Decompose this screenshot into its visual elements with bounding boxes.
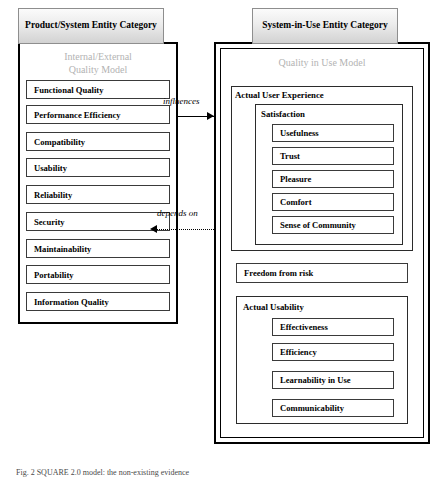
item-label: Usefulness (280, 128, 319, 138)
left-category-header: Product/System Entity Category (18, 8, 164, 44)
right-category-header: System-in-Use Entity Category (252, 8, 398, 44)
left-item-label: Information Quality (34, 297, 109, 307)
usability-item-effectiveness: Effectiveness (272, 318, 394, 336)
group-actual-usability-title: Actual Usability (243, 302, 304, 312)
right-model-label-text: Quality in Use Model (279, 57, 366, 68)
left-category-header-label: Product/System Entity Category (25, 20, 157, 32)
group-title-text: Actual User Experience (235, 90, 324, 100)
satisfaction-item-sense-of-community: Sense of Community (272, 216, 394, 234)
item-label: Effectiveness (280, 322, 328, 332)
depends-on-arrow-head-icon (150, 225, 157, 233)
left-model-label: Internal/External Quality Model (22, 50, 174, 76)
depends-on-arrow-line (156, 229, 214, 230)
right-category-header-label: System-in-Use Entity Category (262, 20, 388, 32)
depends-on-label: depends on (157, 208, 198, 218)
left-model-label-line2: Quality Model (22, 63, 174, 76)
influences-label-text: influences (163, 96, 200, 106)
depends-on-label-text: depends on (157, 208, 198, 218)
group-title-text: Actual Usability (243, 302, 304, 312)
satisfaction-item-pleasure: Pleasure (272, 170, 394, 188)
group-actual-user-experience-title: Actual User Experience (235, 90, 324, 100)
group-title-text: Satisfaction (261, 109, 305, 119)
left-item-reliability: Reliability (26, 185, 170, 204)
satisfaction-item-comfort: Comfort (272, 193, 394, 211)
item-freedom-from-risk: Freedom from risk (236, 263, 408, 283)
left-item-label: Portability (34, 270, 74, 280)
left-item-label: Functional Quality (34, 85, 103, 95)
left-item-maintainability: Maintainability (26, 239, 170, 258)
satisfaction-item-trust: Trust (272, 147, 394, 165)
usability-item-efficiency: Efficiency (272, 343, 394, 361)
left-item-compatibility: Compatibility (26, 132, 170, 151)
item-label: Comfort (280, 197, 312, 207)
left-item-performance-efficiency: Performance Efficiency (26, 105, 170, 124)
item-label: Trust (280, 151, 300, 161)
group-satisfaction-title: Satisfaction (261, 109, 305, 119)
item-label: Freedom from risk (244, 268, 313, 278)
item-label: Efficiency (280, 347, 317, 357)
influences-arrow-head-icon (207, 112, 214, 120)
left-item-usability: Usability (26, 158, 170, 177)
left-item-label: Reliability (34, 190, 72, 200)
usability-item-learnability-in-use: Learnability in Use (272, 371, 394, 389)
item-label: Pleasure (280, 174, 311, 184)
left-item-portability: Portability (26, 265, 170, 284)
right-model-label: Quality in Use Model (224, 56, 420, 69)
left-item-label: Security (34, 217, 65, 227)
satisfaction-item-usefulness: Usefulness (272, 124, 394, 142)
figure-caption-text: Fig. 2 SQUARE 2.0 model: the non-existin… (16, 468, 189, 477)
left-item-label: Usability (34, 163, 67, 173)
influences-label: influences (163, 96, 200, 106)
item-label: Learnability in Use (280, 375, 351, 385)
left-item-security: Security (26, 212, 170, 231)
item-label: Communicability (280, 403, 344, 413)
item-label: Sense of Community (280, 220, 356, 230)
left-item-label: Maintainability (34, 244, 91, 254)
figure-caption: Fig. 2 SQUARE 2.0 model: the non-existin… (16, 468, 439, 477)
left-item-functional-quality: Functional Quality (26, 80, 170, 99)
left-item-label: Compatibility (34, 137, 85, 147)
left-item-label: Performance Efficiency (34, 110, 121, 120)
left-model-label-line1: Internal/External (22, 50, 174, 63)
usability-item-communicability: Communicability (272, 399, 394, 417)
left-item-information-quality: Information Quality (26, 292, 170, 311)
